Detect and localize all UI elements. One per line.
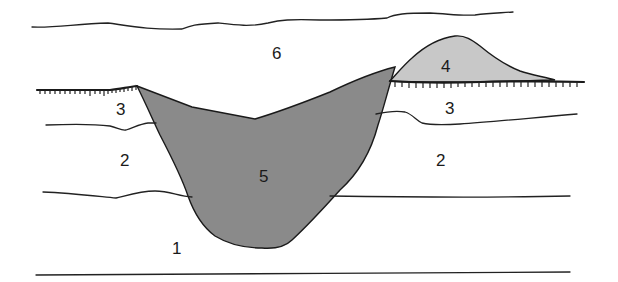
right-erosion-surface bbox=[390, 81, 584, 83]
right-2-1-boundary bbox=[330, 196, 570, 197]
unit-5-body bbox=[137, 67, 395, 248]
unit-1-label: 1 bbox=[172, 239, 181, 258]
right-3-2-boundary bbox=[376, 111, 577, 124]
unit-4-label: 4 bbox=[441, 57, 450, 76]
unit-3-left-label: 3 bbox=[116, 100, 125, 119]
left-3-2-boundary bbox=[46, 123, 156, 130]
unit-6-label: 6 bbox=[272, 44, 281, 63]
unit-5-label: 5 bbox=[259, 167, 268, 186]
left-2-1-boundary bbox=[43, 191, 192, 198]
unit-2-right-label: 2 bbox=[436, 151, 445, 170]
top-boundary-line bbox=[32, 12, 513, 29]
left-erosion-surface bbox=[37, 86, 137, 90]
unit-3-right-label: 3 bbox=[445, 99, 454, 118]
geological-cross-section: 6 4 3 3 2 2 5 1 bbox=[0, 0, 618, 282]
bottom-boundary-line bbox=[36, 272, 570, 275]
unit-4-body bbox=[390, 36, 555, 82]
unit-2-left-label: 2 bbox=[120, 151, 129, 170]
